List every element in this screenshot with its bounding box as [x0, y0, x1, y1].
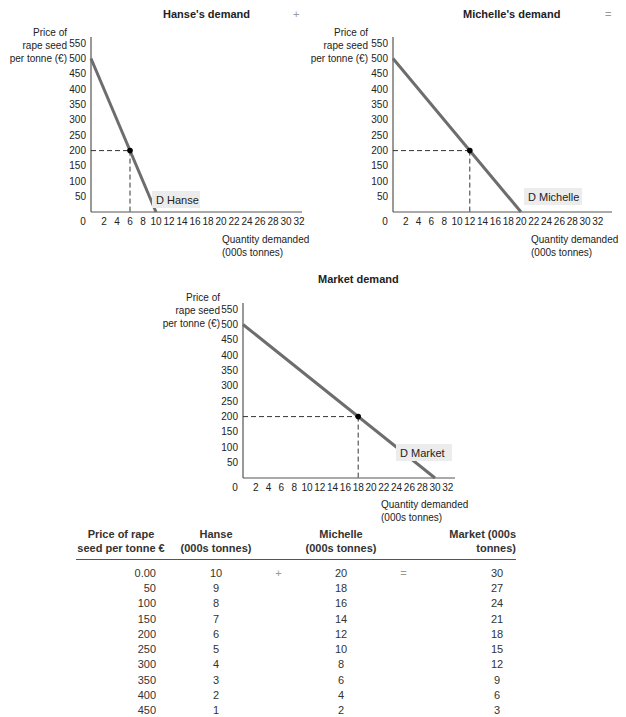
cell-hanse: 1 [166, 703, 266, 717]
cell-operator [391, 703, 416, 717]
x-tick-label: 22 [228, 216, 240, 227]
y-tick-label: 250 [221, 396, 238, 407]
y-tick-label: 500 [69, 53, 86, 64]
cell-price: 50 [76, 580, 166, 595]
x-tick-label: 30 [280, 216, 292, 227]
x-tick-label: 8 [291, 482, 297, 493]
x-tick-label: 26 [404, 482, 416, 493]
x-tick-label: 2 [101, 216, 107, 227]
cell-price: 0.00 [76, 560, 166, 581]
cell-operator [266, 641, 291, 656]
cell-michelle: 20 [291, 560, 391, 581]
cell-operator [391, 596, 416, 611]
table-row: 450123 [76, 703, 516, 717]
y-tick-label: 50 [377, 191, 389, 202]
cell-price: 450 [76, 703, 166, 717]
cell-operator [391, 626, 416, 641]
x-tick-label: 12 [464, 216, 476, 227]
cell-price: 250 [76, 641, 166, 656]
x-tick-label: 0 [232, 482, 238, 493]
cell-market: 21 [416, 611, 516, 626]
x-tick-label: 20 [365, 482, 377, 493]
header-line: seed per tonne € [76, 541, 166, 555]
cell-market: 30 [416, 560, 516, 581]
x-tick-label: 10 [301, 482, 313, 493]
cell-hanse: 10 [166, 560, 266, 581]
x-tick-label: 16 [490, 216, 502, 227]
cell-operator: = [391, 560, 416, 581]
x-tick-label: 4 [114, 216, 120, 227]
y-tick-label: 350 [221, 365, 238, 376]
y-tick-label: 550 [371, 38, 388, 49]
cell-market: 27 [416, 580, 516, 595]
intersection-point [355, 414, 361, 420]
y-tick-label: 450 [69, 68, 86, 79]
cell-hanse: 9 [166, 580, 266, 595]
header-line: Price of rape [76, 527, 166, 541]
y-tick-label: 350 [371, 99, 388, 110]
cell-market: 6 [416, 687, 516, 702]
x-tick-label: 8 [441, 216, 447, 227]
table-row: 20061218 [76, 626, 516, 641]
x-label-line: Quantity demanded [531, 233, 618, 246]
x-tick-label: 22 [528, 216, 540, 227]
cell-michelle: 6 [291, 672, 391, 687]
x-tick-label: 22 [378, 482, 390, 493]
table-row: 5091827 [76, 580, 516, 595]
x-label-line: (000s tonnes) [531, 246, 618, 259]
cell-operator [266, 596, 291, 611]
x-tick-label: 24 [241, 216, 253, 227]
cell-operator [391, 657, 416, 672]
cell-hanse: 2 [166, 687, 266, 702]
y-tick-label: 200 [69, 145, 86, 156]
cell-hanse: 4 [166, 657, 266, 672]
x-tick-label: 14 [327, 482, 339, 493]
y-tick-label: 50 [227, 457, 239, 468]
cell-operator [391, 580, 416, 595]
cell-market: 3 [416, 703, 516, 717]
header-spacer [266, 527, 291, 560]
table-row: 350369 [76, 672, 516, 687]
y-tick-label: 300 [69, 114, 86, 125]
x-label-line: Quantity demanded [222, 233, 309, 246]
cell-price: 400 [76, 687, 166, 702]
cell-hanse: 5 [166, 641, 266, 656]
demand-curve [393, 59, 521, 213]
cell-operator [266, 657, 291, 672]
x-label-line: (000s tonnes) [222, 246, 309, 259]
cell-michelle: 18 [291, 580, 391, 595]
x-tick-label: 6 [279, 482, 285, 493]
x-tick-label: 32 [293, 216, 305, 227]
demand-curve [91, 59, 156, 213]
cell-michelle: 8 [291, 657, 391, 672]
header-michelle: Michelle (000s tonnes) [291, 527, 391, 560]
header-line: Market (000s tonnes) [416, 527, 516, 555]
cell-market: 15 [416, 641, 516, 656]
x-tick-label: 0 [382, 216, 388, 227]
y-tick-label: 100 [221, 442, 238, 453]
y-tick-label: 400 [69, 84, 86, 95]
table-row: 10081624 [76, 596, 516, 611]
x-tick-label: 26 [254, 216, 266, 227]
x-tick-label: 32 [442, 482, 454, 493]
cell-market: 24 [416, 596, 516, 611]
curve-label: D Michelle [528, 191, 579, 203]
cell-price: 350 [76, 672, 166, 687]
x-tick-label: 30 [429, 482, 441, 493]
x-tick-label: 28 [567, 216, 579, 227]
x-tick-label: 32 [592, 216, 604, 227]
x-tick-label: 30 [579, 216, 591, 227]
x-tick-label: 2 [253, 482, 259, 493]
x-tick-label: 16 [340, 482, 352, 493]
y-tick-label: 150 [221, 426, 238, 437]
y-tick-label: 400 [221, 350, 238, 361]
y-tick-label: 550 [69, 38, 86, 49]
cell-michelle: 2 [291, 703, 391, 717]
y-tick-label: 150 [371, 160, 388, 171]
header-market: Market (000s tonnes) [416, 527, 516, 560]
x-axis-label-michelle: Quantity demanded (000s tonnes) [531, 233, 618, 259]
cell-michelle: 10 [291, 641, 391, 656]
x-tick-label: 24 [391, 482, 403, 493]
curve-label: D Market [400, 447, 445, 459]
x-tick-label: 6 [127, 216, 133, 227]
